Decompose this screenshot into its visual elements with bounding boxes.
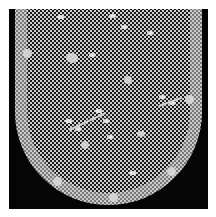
flower-sprig bbox=[137, 131, 145, 137]
leaf bbox=[121, 25, 128, 29]
lace-photograph: Photograph of a white bobbin lace lappet… bbox=[9, 9, 208, 209]
border-flower bbox=[167, 167, 176, 176]
border-flower bbox=[185, 95, 194, 104]
leaf bbox=[95, 109, 102, 113]
leaf bbox=[107, 135, 114, 139]
leaf bbox=[129, 171, 136, 175]
scalloped-border bbox=[15, 9, 202, 205]
leaf bbox=[103, 119, 110, 123]
flower-sprig bbox=[124, 76, 132, 84]
leaf bbox=[89, 53, 96, 57]
flower-sprig bbox=[66, 53, 78, 63]
leaf bbox=[159, 95, 166, 99]
leaf bbox=[75, 127, 82, 131]
leaf bbox=[109, 14, 116, 18]
leaf bbox=[65, 119, 72, 123]
border-flower bbox=[109, 193, 118, 202]
flower-sprig bbox=[81, 141, 89, 149]
border-flower bbox=[23, 49, 32, 58]
leaf bbox=[57, 15, 64, 19]
leaf bbox=[147, 31, 154, 35]
border-flower bbox=[53, 177, 62, 186]
